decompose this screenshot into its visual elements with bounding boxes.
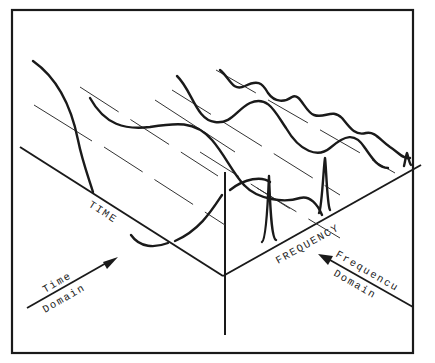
time-frequency-diagram: TIME FREQUENCY Time Domain Frequencu Dom… — [0, 0, 435, 363]
time-axis — [20, 147, 223, 276]
second-harmonic-wave — [90, 98, 244, 185]
fundamental-wave — [33, 61, 93, 192]
second-harmonic-wave-mid — [244, 185, 322, 215]
spectral-peak-third — [404, 153, 411, 166]
frequency-domain-arrowhead — [318, 254, 333, 265]
diagram-frame — [12, 10, 413, 353]
third-harmonic-wave — [177, 76, 388, 168]
time-axis-label: TIME — [86, 198, 119, 225]
guide-lines — [34, 70, 395, 238]
spectral-peak-fundamental — [262, 176, 276, 242]
time-domain-arrowhead — [103, 257, 118, 269]
fundamental-wave-cap — [230, 179, 270, 190]
spectral-peak-second — [319, 158, 330, 213]
fourth-harmonic-wave — [220, 70, 410, 158]
